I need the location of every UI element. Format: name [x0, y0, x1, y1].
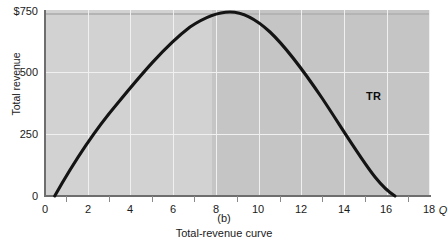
panel-label: (b) [0, 212, 448, 224]
plot-shade-right-region [212, 10, 430, 196]
gridline-vertical-q12 [301, 10, 302, 196]
gridline-vertical-q8 [216, 10, 217, 196]
x-tick-mark-13 [322, 196, 323, 202]
gridline-vertical-q16 [387, 10, 388, 196]
x-tick-mark-17 [408, 196, 409, 202]
gridline-horizontal-500 [45, 72, 430, 73]
plot-area [45, 10, 430, 196]
x-tick-mark-15 [365, 196, 366, 202]
x-tick-mark-11 [280, 196, 281, 202]
tr-curve-label: TR [366, 90, 381, 102]
gridline-horizontal-250 [45, 134, 430, 135]
gridline-vertical-q4 [130, 10, 131, 196]
y-tick-label-750: $750 [0, 5, 38, 17]
x-tick-mark-1 [66, 196, 67, 202]
y-axis-title: Total revenue [10, 24, 22, 144]
x-tick-mark-7 [194, 196, 195, 202]
gridline-vertical-q10 [259, 10, 260, 196]
y-tick-label-0: 0 [0, 190, 38, 202]
gridline-vertical-q14 [344, 10, 345, 196]
y-axis-line [44, 10, 46, 197]
x-tick-mark-3 [109, 196, 110, 202]
max-revenue-reference-line [45, 13, 430, 15]
gridline-vertical-q2 [88, 10, 89, 196]
x-tick-mark-9 [237, 196, 238, 202]
gridline-vertical-q6 [173, 10, 174, 196]
total-revenue-chart-figure: $750 500 250 0 Total revenue 0 2 4 6 8 1… [0, 0, 448, 244]
x-tick-mark-5 [152, 196, 153, 202]
figure-caption: Total-revenue curve [0, 227, 448, 239]
gridline-vertical-q18 [429, 10, 430, 196]
